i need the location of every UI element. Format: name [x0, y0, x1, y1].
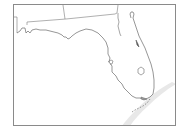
highlight-band [122, 82, 176, 126]
river-st-johns [118, 13, 121, 36]
state-border-alabama [63, 5, 65, 19]
map-canvas [0, 0, 186, 130]
state-outline-florida [17, 12, 154, 99]
indian-river-lagoon [136, 40, 139, 47]
lake-okeechobee [138, 67, 144, 75]
florida-bay [141, 97, 147, 100]
state-border-alabama-west [14, 17, 17, 33]
state-border-georgia [27, 5, 118, 25]
